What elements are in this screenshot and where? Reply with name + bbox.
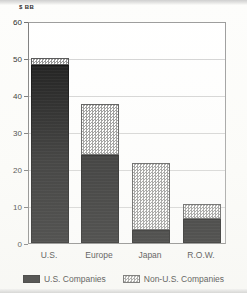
legend-label-non-us-companies: Non-U.S. Companies bbox=[144, 274, 224, 284]
x-tick-label-row: R.O.W. bbox=[182, 250, 220, 260]
y-tick-label-60: 60 bbox=[2, 18, 22, 27]
bar-japan-segment-non-us-companies[interactable] bbox=[132, 163, 170, 230]
y-tick-label-20: 20 bbox=[2, 166, 22, 175]
legend-item-non-us-companies[interactable]: Non-U.S. Companies bbox=[123, 274, 224, 284]
plot-area bbox=[28, 22, 226, 244]
y-tick-label-40: 40 bbox=[2, 92, 22, 101]
x-tick-label-japan: Japan bbox=[131, 250, 169, 260]
bar-us-segment-non-us-companies[interactable] bbox=[31, 58, 69, 65]
chart-legend: U.S. Companies Non-U.S. Companies bbox=[0, 274, 247, 284]
bar-row-segment-us-companies[interactable] bbox=[183, 219, 221, 243]
bar-us-segment-us-companies[interactable] bbox=[31, 65, 69, 243]
legend-swatch-us-companies-icon bbox=[23, 275, 40, 283]
y-axis-unit-label: $ BB bbox=[19, 4, 34, 10]
x-tick-label-us: U.S. bbox=[30, 250, 68, 260]
scan-artifact-bottom bbox=[0, 289, 247, 293]
bar-us[interactable] bbox=[31, 58, 69, 243]
bar-europe-segment-us-companies[interactable] bbox=[81, 155, 119, 243]
bar-row-segment-non-us-companies[interactable] bbox=[183, 204, 221, 219]
y-tick-label-0: 0 bbox=[2, 240, 22, 249]
legend-swatch-non-us-companies-icon bbox=[123, 275, 140, 283]
x-tick-label-europe: Europe bbox=[80, 250, 118, 260]
stacked-bar-chart: $ BB 60 50 40 30 20 10 0 bbox=[0, 0, 247, 293]
bar-japan-segment-us-companies[interactable] bbox=[132, 230, 170, 243]
legend-label-us-companies: U.S. Companies bbox=[44, 274, 106, 284]
bar-japan[interactable] bbox=[132, 163, 170, 243]
y-tick-label-50: 50 bbox=[2, 55, 22, 64]
bar-europe[interactable] bbox=[81, 104, 119, 244]
y-tick-label-30: 30 bbox=[2, 129, 22, 138]
legend-item-us-companies[interactable]: U.S. Companies bbox=[23, 274, 106, 284]
y-tick-mark-0 bbox=[24, 244, 28, 245]
bar-europe-segment-non-us-companies[interactable] bbox=[81, 104, 119, 155]
y-tick-label-10: 10 bbox=[2, 203, 22, 212]
bar-row[interactable] bbox=[183, 204, 221, 243]
